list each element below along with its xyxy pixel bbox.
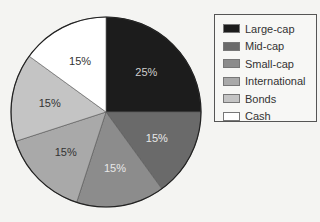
legend-item-mid-cap: Mid-cap	[223, 38, 316, 56]
legend-label: Bonds	[245, 93, 276, 105]
legend: Large-cap Mid-cap Small-cap Internationa…	[214, 14, 317, 122]
legend-swatch	[223, 112, 240, 121]
legend-label: International	[245, 75, 306, 87]
slice-label: 25%	[135, 66, 157, 78]
legend-item-international: International	[223, 73, 316, 91]
slice-label: 15%	[69, 55, 91, 67]
legend-label: Cash	[245, 110, 271, 122]
legend-label: Small-cap	[245, 58, 294, 70]
slice-label: 15%	[39, 97, 61, 109]
legend-item-cash: Cash	[223, 108, 316, 126]
legend-swatch	[223, 24, 240, 33]
legend-item-bonds: Bonds	[223, 90, 316, 108]
legend-label: Large-cap	[245, 23, 295, 35]
slice-label: 15%	[55, 146, 77, 158]
slice-label: 15%	[146, 132, 168, 144]
legend-swatch	[223, 42, 240, 51]
legend-item-large-cap: Large-cap	[223, 20, 316, 38]
legend-swatch	[223, 94, 240, 103]
slice-label: 15%	[104, 162, 126, 174]
legend-label: Mid-cap	[245, 40, 284, 52]
legend-swatch	[223, 77, 240, 86]
pie-slice-large-cap	[106, 17, 201, 112]
legend-item-small-cap: Small-cap	[223, 55, 316, 73]
pie-chart: 25%15%15%15%15%15%	[0, 0, 220, 222]
legend-swatch	[223, 59, 240, 68]
